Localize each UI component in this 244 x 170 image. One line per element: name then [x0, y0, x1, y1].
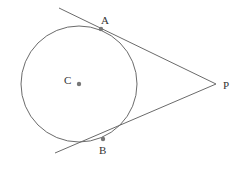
label-c: C — [64, 74, 71, 86]
tangent-diagram: A B C P — [0, 0, 244, 170]
label-a: A — [101, 14, 109, 26]
label-p: P — [223, 79, 229, 91]
point-c — [77, 82, 81, 86]
point-a — [99, 27, 103, 31]
tangent-line-pb — [55, 84, 216, 153]
point-b — [101, 137, 105, 141]
label-b: B — [99, 144, 106, 156]
tangent-line-pa — [59, 8, 216, 84]
